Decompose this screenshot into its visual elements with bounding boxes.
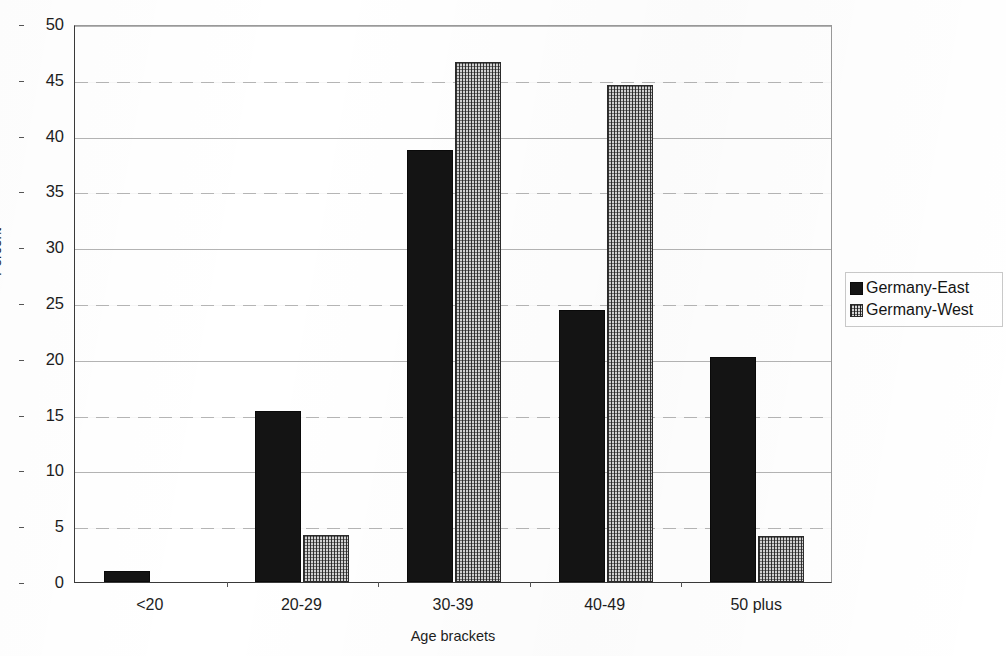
legend-swatch-solid-icon <box>850 282 863 295</box>
x-axis-tick-label: 40-49 <box>525 596 685 614</box>
bar-chart: Percent 05101520253035404550 <2020-2930-… <box>0 0 1006 656</box>
y-axis-tick-mark <box>19 471 24 472</box>
x-axis-tick-mark <box>681 582 682 587</box>
legend-item-germany-west[interactable]: Germany-West <box>850 299 999 321</box>
y-axis-tick-mark <box>19 583 24 584</box>
y-axis-tick-label: 35 <box>24 182 64 201</box>
legend-label: Germany-East <box>866 279 969 297</box>
legend-swatch-pattern-icon <box>850 304 863 317</box>
gridline <box>75 138 831 139</box>
y-axis-tick-label: 10 <box>24 461 64 480</box>
bar-40-49-germany-west <box>607 85 653 582</box>
x-axis-label: Age brackets <box>0 628 906 644</box>
x-axis-tick-mark <box>378 582 379 587</box>
y-axis-tick-label: 25 <box>24 294 64 313</box>
y-axis-tick-mark <box>19 360 24 361</box>
bar-20-29-germany-east <box>255 411 301 582</box>
y-axis-tick-mark <box>19 192 24 193</box>
y-axis-tick-label: 0 <box>24 573 64 592</box>
x-axis-tick-label: 50 plus <box>676 596 836 614</box>
y-axis-tick-label: 5 <box>24 517 64 536</box>
gridline <box>75 82 831 83</box>
y-axis-tick-label: 15 <box>24 406 64 425</box>
legend-label: Germany-West <box>866 301 973 319</box>
y-axis-tick-label: 45 <box>24 71 64 90</box>
bar-50-plus-germany-east <box>710 357 756 582</box>
y-axis-tick-mark <box>19 81 24 82</box>
y-axis-tick-mark <box>19 137 24 138</box>
gridline <box>75 193 831 194</box>
y-axis-tick-mark <box>19 304 24 305</box>
y-axis-tick-mark <box>19 416 24 417</box>
x-axis-tick-mark <box>227 582 228 587</box>
y-axis-tick-label: 50 <box>24 15 64 34</box>
gridline <box>75 26 831 27</box>
x-axis-tick-mark <box>530 582 531 587</box>
y-axis-tick-mark <box>19 248 24 249</box>
bar-30-39-germany-west <box>455 62 501 582</box>
x-axis-tick-label: 30-39 <box>373 596 533 614</box>
legend-item-germany-east[interactable]: Germany-East <box>850 277 999 299</box>
plot-area <box>74 25 832 583</box>
y-axis-tick-mark <box>19 25 24 26</box>
y-axis-tick-label: 40 <box>24 127 64 146</box>
x-axis-tick-label: <20 <box>70 596 230 614</box>
bar--20-germany-east <box>104 571 150 582</box>
y-axis-label: Percent <box>0 228 4 276</box>
y-axis-tick-label: 30 <box>24 238 64 257</box>
y-axis-tick-label: 20 <box>24 350 64 369</box>
bar-20-29-germany-west <box>303 535 349 582</box>
bar-30-39-germany-east <box>407 150 453 582</box>
y-axis-tick-mark <box>19 527 24 528</box>
x-axis-tick-label: 20-29 <box>221 596 381 614</box>
gridline <box>75 249 831 250</box>
chart-legend: Germany-East Germany-West <box>845 272 1003 327</box>
bar-40-49-germany-east <box>559 310 605 582</box>
bar-50-plus-germany-west <box>758 536 804 582</box>
gridline <box>75 305 831 306</box>
